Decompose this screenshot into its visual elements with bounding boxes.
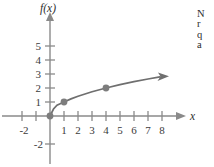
function-graph-figure: -2 1 2 3 4 5 6 7 8 1 2 3 4 5 -2 f(x) x N… bbox=[0, 0, 214, 167]
side-text-line-4: a bbox=[197, 40, 214, 50]
y-tick-label-5: 5 bbox=[36, 40, 42, 52]
y-tick-label--2: -2 bbox=[34, 138, 43, 150]
x-tick-label--2: -2 bbox=[19, 124, 28, 136]
x-tick-label-6: 6 bbox=[131, 124, 137, 136]
x-tick-label-5: 5 bbox=[117, 124, 123, 136]
x-tick-label-1: 1 bbox=[61, 124, 67, 136]
y-tick-label-3: 3 bbox=[36, 68, 42, 80]
point-marker-1-1 bbox=[61, 99, 68, 106]
point-marker-origin bbox=[47, 113, 54, 120]
graph-canvas: -2 1 2 3 4 5 6 7 8 1 2 3 4 5 -2 f(x) x bbox=[0, 0, 214, 167]
y-tick-label-4: 4 bbox=[36, 54, 42, 66]
y-tick-label-2: 2 bbox=[36, 82, 42, 94]
x-axis-arrow-icon bbox=[176, 112, 186, 120]
x-tick-label-8: 8 bbox=[159, 124, 165, 136]
side-text-block: N r q a bbox=[197, 9, 214, 51]
x-tick-label-4: 4 bbox=[103, 124, 109, 136]
y-tick-label-1: 1 bbox=[36, 96, 42, 108]
x-tick-label-2: 2 bbox=[75, 124, 81, 136]
x-tick-label-3: 3 bbox=[89, 124, 95, 136]
point-marker-4-2 bbox=[103, 85, 110, 92]
x-tick-label-7: 7 bbox=[145, 124, 151, 136]
y-axis-label: f(x) bbox=[40, 2, 56, 15]
x-axis-label: x bbox=[189, 110, 196, 122]
sqrt-curve bbox=[50, 77, 160, 116]
